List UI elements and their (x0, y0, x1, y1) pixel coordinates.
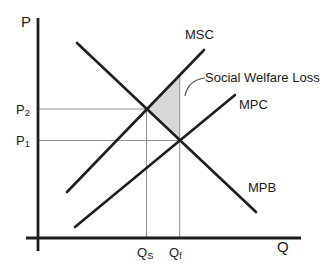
quantity-qs-base: Q (137, 245, 147, 260)
mpb-curve (77, 43, 256, 212)
mpb-curve-label: MPB (248, 180, 276, 195)
price-p2-label: P2 (16, 102, 30, 117)
msc-curve-label: MSC (185, 27, 214, 42)
mpc-curve-label: MPC (239, 97, 268, 112)
x-axis-label: Q (277, 239, 289, 254)
welfare-loss-area (147, 74, 180, 140)
y-axis-label: P (21, 14, 31, 29)
price-p1-label: P1 (16, 133, 30, 148)
welfare-loss-leader-line (185, 78, 205, 96)
price-p2-subscript: 2 (25, 108, 30, 118)
diagram-canvas (0, 0, 335, 271)
price-p1-subscript: 1 (25, 139, 30, 149)
quantity-qf-base: Q (169, 245, 179, 260)
quantity-qf-label: Qf (169, 245, 182, 260)
msc-curve (67, 50, 204, 192)
quantity-qf-subscript: f (179, 251, 182, 261)
price-p2-base: P (16, 102, 25, 117)
quantity-qs-subscript: S (147, 251, 153, 261)
welfare-loss-annotation: Social Welfare Loss (205, 70, 320, 85)
quantity-qs-label: QS (137, 245, 153, 260)
externality-diagram: P Q P2 P1 QS Qf MSC MPC MPB Social Welfa… (0, 0, 335, 271)
price-p1-base: P (16, 133, 25, 148)
